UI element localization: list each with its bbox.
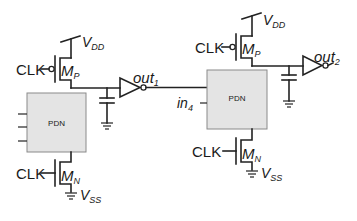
ground-icon-cap-1	[101, 123, 113, 129]
vss-label-2: VSS	[261, 165, 282, 183]
out1-label: out1	[133, 69, 159, 88]
pdn-label-2: PDN	[229, 94, 246, 103]
mp-label-1: MP	[61, 62, 80, 81]
pdn-label-1: PDN	[48, 119, 65, 128]
stage-2: VDD CLK MP out2	[177, 12, 340, 183]
mp-label-2: MP	[242, 40, 261, 59]
vdd-label-1: VDD	[82, 34, 105, 52]
in4-label: in4	[177, 95, 193, 113]
ground-icon-vss-2	[246, 171, 258, 177]
clk-label-n1: CLK	[16, 165, 45, 182]
out2-label: out2	[314, 48, 340, 67]
domino-circuit-diagram: VDD CLK MP out1	[0, 0, 357, 221]
pdn-inputs-1	[18, 114, 27, 141]
clk-label-n2: CLK	[192, 143, 221, 160]
vdd-label-2: VDD	[263, 12, 286, 30]
clk-label-p2: CLK	[195, 39, 224, 56]
vdd-symbol-2	[242, 13, 261, 36]
mn-label-1: MN	[61, 167, 81, 186]
vdd-symbol-1	[61, 36, 80, 58]
mn-label-2: MN	[242, 145, 262, 164]
ground-icon-vss-1	[65, 193, 77, 199]
capacitor-2	[282, 66, 296, 101]
ground-icon-cap-2	[283, 101, 295, 107]
stage-1: VDD CLK MP out1	[16, 34, 207, 205]
vss-label-1: VSS	[80, 187, 101, 205]
capacitor-1	[100, 88, 114, 123]
clk-label-p1: CLK	[16, 61, 45, 78]
